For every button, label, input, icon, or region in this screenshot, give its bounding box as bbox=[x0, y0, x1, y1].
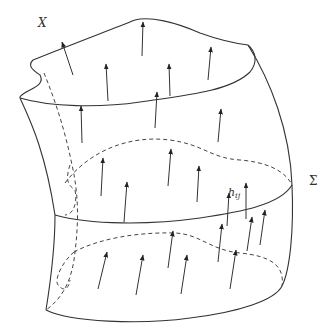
label-Sigma: Σ bbox=[309, 174, 317, 188]
label-X: X bbox=[37, 16, 47, 30]
normal-vector-arrow-icon bbox=[124, 182, 127, 222]
normal-vector-arrow-icon bbox=[155, 92, 157, 128]
right-silhouette bbox=[248, 45, 293, 286]
surface-diagram: X Σ hij bbox=[0, 0, 335, 334]
normal-vector-arrow-icon bbox=[106, 64, 108, 101]
normal-vector-arrow-icon bbox=[168, 149, 171, 186]
normal-vector-arrow-icon bbox=[101, 158, 103, 196]
normal-vector-arrow-icon bbox=[62, 42, 73, 75]
normal-vector-arrow-icon bbox=[168, 231, 173, 268]
normal-vector-arrow-icon bbox=[169, 64, 170, 96]
left-silhouette bbox=[20, 98, 55, 310]
lower-ring-back-left bbox=[57, 252, 74, 289]
normal-vector-arrow-icon bbox=[98, 252, 107, 289]
hidden-left-edge bbox=[44, 73, 78, 310]
label-h-subscript: ij bbox=[235, 191, 241, 200]
normal-vector-arrow-icon bbox=[181, 255, 187, 294]
top-rim-back bbox=[33, 19, 248, 60]
normal-vector-arrow-icon bbox=[260, 210, 265, 245]
bottom-ring-front bbox=[46, 286, 282, 322]
label-h-base: h bbox=[228, 186, 235, 199]
hidden-left-edge-2 bbox=[65, 165, 76, 215]
label-h-ij: hij bbox=[228, 186, 241, 200]
normal-vector-arrow-icon bbox=[81, 106, 82, 143]
middle-ring-front bbox=[55, 185, 292, 223]
normal-vector-arrow-icon bbox=[142, 22, 143, 56]
normal-vector-arrow-icon bbox=[230, 250, 236, 289]
normal-vector-arrow-icon bbox=[247, 217, 252, 251]
normal-vector-arrow-icon bbox=[218, 109, 221, 142]
top-rim-front bbox=[20, 45, 255, 106]
normal-vector-field bbox=[62, 22, 265, 295]
normal-vector-arrow-icon bbox=[136, 255, 143, 295]
normal-vector-arrow-icon bbox=[218, 224, 222, 262]
normal-vector-arrow-icon bbox=[197, 166, 199, 202]
normal-vector-arrow-icon bbox=[208, 47, 211, 80]
left-wavy-edge bbox=[20, 60, 41, 98]
middle-ring-back bbox=[65, 139, 292, 185]
